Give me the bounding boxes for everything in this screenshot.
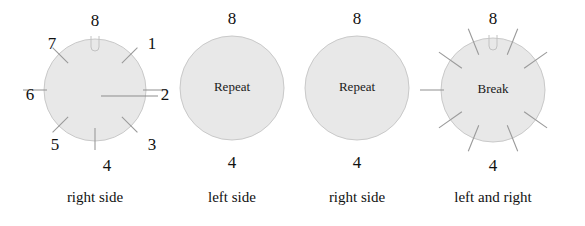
dial-caption: left and right [454, 189, 532, 205]
dial-figure: 81234567right sideRepeat84left sideRepea… [0, 0, 585, 226]
dial-4[interactable]: Break84left and right [420, 9, 547, 206]
dial-inner-label: Repeat [339, 79, 375, 94]
dial-number-label: 8 [228, 9, 237, 28]
dial-caption: right side [329, 189, 386, 205]
dial-inner-label: Break [477, 81, 509, 96]
dial-number-label: 3 [148, 135, 157, 154]
dial-number-label: 8 [91, 11, 100, 30]
dial-inner-label: Repeat [214, 79, 250, 94]
dial-number-label: 8 [489, 9, 498, 28]
dial-number-label: 5 [51, 135, 60, 154]
dial-1[interactable]: 81234567right side [23, 11, 169, 206]
dial-number-label: 2 [161, 85, 170, 104]
dial-number-label: 6 [26, 85, 35, 104]
dial-number-label: 4 [353, 153, 362, 172]
dial-3[interactable]: Repeat84right side [305, 9, 409, 206]
dial-number-label: 4 [103, 156, 112, 175]
dial-figure-svg: 81234567right sideRepeat84left sideRepea… [0, 0, 585, 226]
dial-number-label: 1 [148, 34, 157, 53]
dial-number-label: 4 [489, 156, 498, 175]
dial-caption: right side [67, 189, 124, 205]
dial-number-label: 7 [48, 34, 57, 53]
dial-caption: left side [208, 189, 256, 205]
dial-2[interactable]: Repeat84left side [180, 9, 284, 206]
dial-number-label: 8 [353, 9, 362, 28]
dial-number-label: 4 [228, 153, 237, 172]
